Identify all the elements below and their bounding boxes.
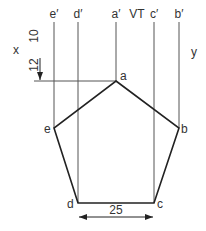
label-vertex-c: c [157, 197, 163, 211]
label-dim-10: 10 [27, 29, 41, 43]
label-a-prime: a′ [112, 7, 122, 21]
label-dim-12: 12 [27, 58, 41, 72]
label-vertex-b: b [181, 122, 188, 136]
label-e-prime: e′ [50, 7, 60, 21]
label-b-prime: b′ [175, 7, 185, 21]
label-dim-25: 25 [109, 203, 123, 217]
label-vertex-e: e [44, 122, 51, 136]
pentagon-projection-diagram: e′ d′ a′ VT c′ b′ x y 10 12 a b c d e 25 [0, 0, 206, 231]
pentagon [54, 81, 179, 203]
label-vertex-a: a [120, 69, 127, 83]
label-x: x [13, 43, 19, 57]
label-d-prime: d′ [74, 7, 84, 21]
label-c-prime: c′ [150, 7, 159, 21]
label-y: y [191, 45, 197, 59]
label-vertex-d: d [67, 197, 74, 211]
label-vt: VT [129, 7, 145, 21]
